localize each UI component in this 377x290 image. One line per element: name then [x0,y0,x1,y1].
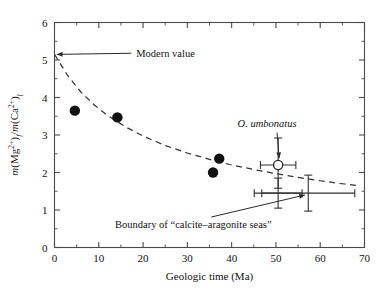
y-tick-label: 1 [42,204,48,216]
y-tick-label: 3 [42,129,48,141]
data-point-filled [112,112,122,122]
y-tick-label: 0 [42,242,48,254]
annotation-modern-value: Modern value [136,48,195,59]
scatter-plot: 0102030405060700123456 Modern valueO. um… [0,0,377,290]
x-tick-label: 70 [359,252,371,264]
x-tick-label: 10 [93,252,105,264]
data-point-open [274,160,283,169]
y-tick-label: 2 [42,167,48,179]
arrow-head [299,194,305,199]
axis-titles: Geologic time (Ma)m(Mg2+)l/m(Ca2+)l [7,94,254,282]
x-tick-label: 40 [226,252,238,264]
x-tick-label: 20 [138,252,150,264]
calcite-aragonite-leader [211,194,305,217]
data-points [70,105,283,177]
trend-line [55,54,358,185]
data-point-filled [214,153,224,163]
data-point-filled [208,167,218,177]
ticks-layer [55,23,365,248]
figure-container: 0102030405060700123456 Modern valueO. um… [0,0,377,290]
axes-frame [55,23,365,248]
data-point-filled [70,105,80,115]
x-tick-label: 30 [182,252,194,264]
modern-value-leader [57,52,131,57]
y-tick-label: 4 [42,92,48,104]
y-axis-title: m(Mg2+)l/m(Ca2+)l [7,94,25,175]
annotation-calcite-aragonite: Boundary of “calcite–aragonite seas” [115,219,272,230]
arrow-head [57,52,63,57]
leader-line [211,195,305,217]
y-tick-label: 5 [42,54,48,66]
error-bars [254,138,355,211]
leader-line [57,53,131,54]
x-axis-title: Geologic time (Ma) [166,270,254,283]
x-tick-label: 0 [52,252,58,264]
annotations-layer: Modern valueO. umbonatusBoundary of “cal… [57,48,305,230]
y-tick-label: 6 [42,17,48,29]
annotation-o-umbonatus: O. umbonatus [238,118,297,129]
fitted-decay-curve [55,54,358,185]
x-tick-label: 50 [270,252,282,264]
plot-frame [55,23,365,248]
x-tick-label: 60 [315,252,327,264]
